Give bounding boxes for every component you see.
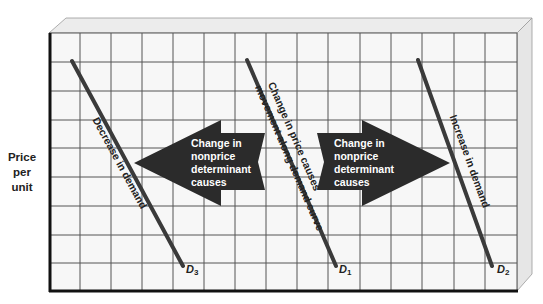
arrow-label-line: Change in	[334, 137, 394, 150]
d2-letter: D	[497, 263, 505, 275]
d3-subscript: 3	[194, 268, 198, 277]
d2-subscript: 2	[505, 268, 509, 277]
y-axis-label-line: unit	[0, 180, 44, 195]
panel-bevel-top	[49, 18, 532, 33]
left-arrow-label: Change in nonprice determinant causes	[191, 137, 251, 189]
d3-letter: D	[186, 263, 194, 275]
arrow-label-line: determinant	[334, 163, 394, 176]
diagram: Price per unit Change in nonprice determ…	[0, 0, 543, 304]
arrow-label-line: nonprice	[334, 150, 394, 163]
d3-label: D3	[186, 263, 198, 277]
d1-label: D1	[339, 263, 351, 277]
arrow-label-line: nonprice	[191, 150, 251, 163]
arrow-label-line: causes	[334, 176, 394, 189]
d1-letter: D	[339, 263, 347, 275]
arrow-label-line: causes	[191, 176, 251, 189]
right-arrow-label: Change in nonprice determinant causes	[334, 137, 394, 189]
y-axis-label-line: Price	[0, 150, 44, 165]
panel-bevel-right	[517, 18, 532, 291]
arrow-label-line: Change in	[191, 137, 251, 150]
d2-label: D2	[497, 263, 509, 277]
arrow-label-line: determinant	[191, 163, 251, 176]
y-axis-label: Price per unit	[0, 150, 44, 195]
d1-subscript: 1	[347, 268, 351, 277]
y-axis-label-line: per	[0, 165, 44, 180]
